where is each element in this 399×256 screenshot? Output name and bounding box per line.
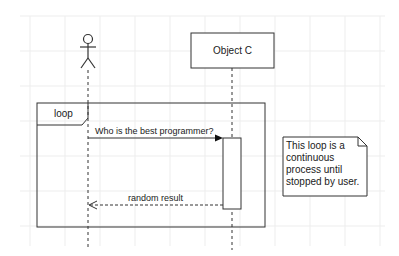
message-label-return: random result xyxy=(128,193,183,203)
loop-label: loop xyxy=(54,108,73,119)
object-label: Object C xyxy=(191,33,274,68)
arrowhead-filled-icon xyxy=(215,135,223,142)
activation-box xyxy=(223,138,241,209)
message-label-request: Who is the best programmer? xyxy=(95,126,214,136)
note-text: This loop is a continuous process until … xyxy=(286,140,364,188)
